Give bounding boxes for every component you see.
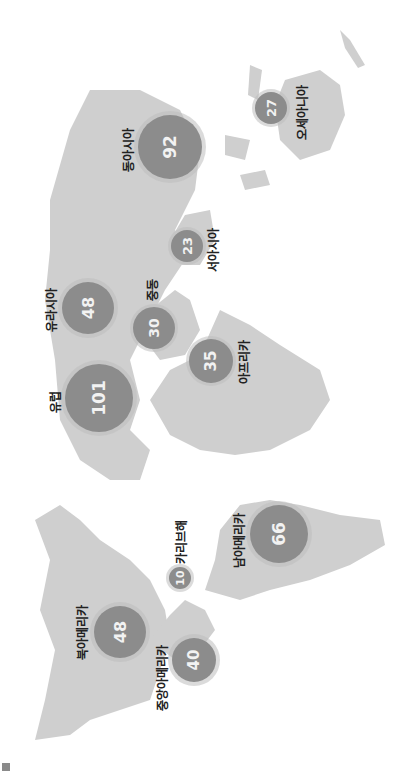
- region-label: 동아시아: [121, 128, 136, 172]
- region-caribbean[interactable]: 10 카리브해: [166, 520, 194, 592]
- region-label: 유럽: [49, 391, 63, 413]
- legend-swatch: [2, 763, 10, 771]
- region-value: 48: [79, 297, 98, 319]
- region-value: 30: [146, 318, 162, 338]
- land-new-zealand: [340, 30, 365, 68]
- region-north-america[interactable]: 48 북아메리카: [75, 602, 150, 662]
- region-value: 101: [89, 380, 109, 416]
- region-value: 92: [160, 135, 180, 159]
- region-label: 서아시아: [206, 228, 221, 272]
- region-africa[interactable]: 35 아프리카: [186, 336, 252, 386]
- land-southeast-asia: [225, 135, 270, 190]
- region-label: 아프리카: [237, 340, 252, 384]
- region-label: 남아메리카: [232, 513, 247, 568]
- region-label: 유라시아: [44, 288, 59, 332]
- region-label: 오세아니아: [295, 85, 310, 140]
- region-label: 중앙아메리카: [155, 645, 170, 711]
- region-value: 10: [174, 570, 187, 586]
- region-value: 40: [185, 650, 203, 671]
- region-central-america[interactable]: 40 중앙아메리카: [155, 634, 220, 711]
- region-value: 66: [269, 522, 289, 546]
- region-value: 27: [264, 99, 279, 117]
- region-value: 48: [111, 621, 130, 643]
- region-label: 중동: [146, 279, 160, 301]
- region-value: 23: [180, 237, 195, 255]
- world-map: 48 북아메리카 40 중앙아메리카 10 카리브해 66 남아메리카 101 …: [0, 0, 404, 774]
- region-label: 카리브해: [174, 520, 189, 564]
- region-label: 북아메리카: [75, 605, 90, 660]
- region-value: 35: [202, 351, 220, 372]
